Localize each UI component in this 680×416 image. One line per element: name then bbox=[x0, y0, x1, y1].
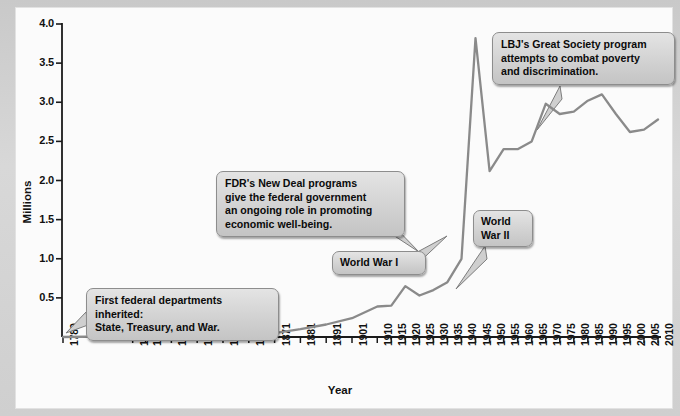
annotation-callout-world-war-1: World War I bbox=[332, 251, 426, 275]
annotation-callout-fdr-new-deal: FDR's New Deal programs give the federal… bbox=[216, 171, 405, 237]
annotation-pointer-lbj-great-society bbox=[537, 86, 562, 130]
annotation-callout-lbj-great-society: LBJ's Great Society program attempts to … bbox=[492, 32, 675, 85]
annotation-pointer-first-departments bbox=[66, 312, 88, 333]
annotation-pointer-world-war-2 bbox=[456, 246, 487, 289]
chart-figure: Millions Year 0.51.01.52.02.53.03.54.0 1… bbox=[0, 0, 680, 416]
annotation-callout-world-war-2: World War II bbox=[473, 210, 533, 247]
annotation-callout-first-departments: First federal departments inherited: Sta… bbox=[86, 288, 279, 341]
